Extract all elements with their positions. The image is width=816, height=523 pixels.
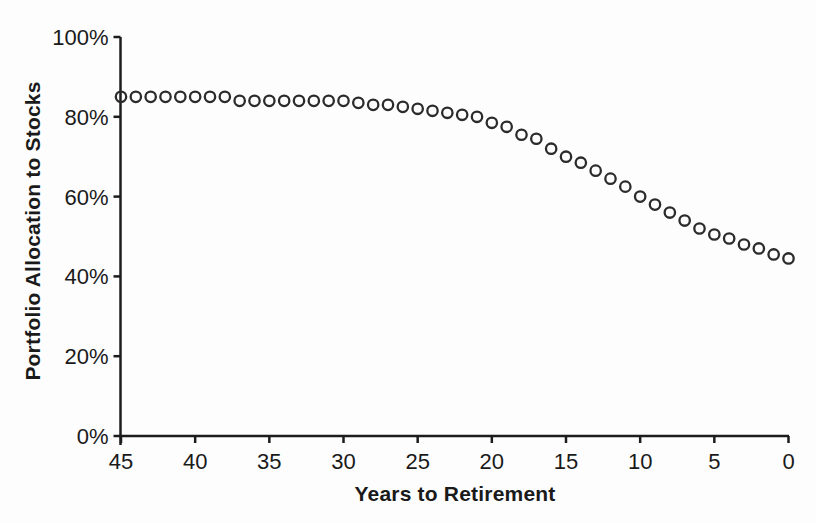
- data-point: [398, 102, 408, 112]
- data-point: [561, 152, 571, 162]
- data-point: [590, 165, 600, 175]
- data-point: [442, 108, 452, 118]
- data-point: [412, 104, 422, 114]
- data-point: [605, 173, 615, 183]
- data-point: [531, 134, 541, 144]
- x-tick-label: 5: [708, 449, 720, 474]
- data-point: [234, 96, 244, 106]
- data-point: [635, 191, 645, 201]
- data-point: [309, 96, 319, 106]
- x-tick-label: 40: [183, 449, 207, 474]
- chart-page: 0%20%40%60%80%100%454035302520151050 Yea…: [0, 0, 816, 523]
- data-point: [650, 199, 660, 209]
- data-point: [249, 96, 259, 106]
- data-point: [383, 100, 393, 110]
- data-point: [205, 92, 215, 102]
- y-tick-label: 100%: [52, 25, 108, 50]
- y-tick-label: 60%: [64, 185, 108, 210]
- data-point: [709, 229, 719, 239]
- plot-area: 0%20%40%60%80%100%454035302520151050: [0, 0, 816, 523]
- y-tick-label: 40%: [64, 264, 108, 289]
- data-point: [487, 118, 497, 128]
- x-tick-label: 10: [628, 449, 652, 474]
- data-point: [665, 207, 675, 217]
- data-point: [457, 110, 467, 120]
- x-tick-label: 30: [331, 449, 355, 474]
- data-point: [694, 223, 704, 233]
- y-tick-label: 0%: [77, 424, 109, 449]
- data-point: [131, 92, 141, 102]
- data-point: [724, 233, 734, 243]
- y-tick-label: 80%: [64, 105, 108, 130]
- data-point: [516, 130, 526, 140]
- data-point: [175, 92, 185, 102]
- data-point: [679, 215, 689, 225]
- data-point: [353, 98, 363, 108]
- x-tick-label: 45: [109, 449, 133, 474]
- data-point: [754, 243, 764, 253]
- data-point: [220, 92, 230, 102]
- y-tick-label: 20%: [64, 344, 108, 369]
- y-axis-title: Portfolio Allocation to Stocks: [21, 81, 45, 380]
- data-point: [620, 181, 630, 191]
- x-tick-label: 25: [405, 449, 429, 474]
- data-point: [160, 92, 170, 102]
- data-point: [323, 96, 333, 106]
- data-point: [338, 96, 348, 106]
- x-axis-title: Years to Retirement: [354, 482, 555, 506]
- data-point: [294, 96, 304, 106]
- data-point: [427, 106, 437, 116]
- x-tick-label: 15: [554, 449, 578, 474]
- data-point: [264, 96, 274, 106]
- data-point: [546, 144, 556, 154]
- x-tick-label: 20: [480, 449, 504, 474]
- data-point: [501, 122, 511, 132]
- data-point: [368, 100, 378, 110]
- data-point: [145, 92, 155, 102]
- x-tick-label: 35: [257, 449, 281, 474]
- data-point: [739, 239, 749, 249]
- data-point: [576, 157, 586, 167]
- data-point: [472, 112, 482, 122]
- data-point: [190, 92, 200, 102]
- x-tick-label: 0: [782, 449, 794, 474]
- data-point: [279, 96, 289, 106]
- data-point: [768, 249, 778, 259]
- data-point: [783, 253, 793, 263]
